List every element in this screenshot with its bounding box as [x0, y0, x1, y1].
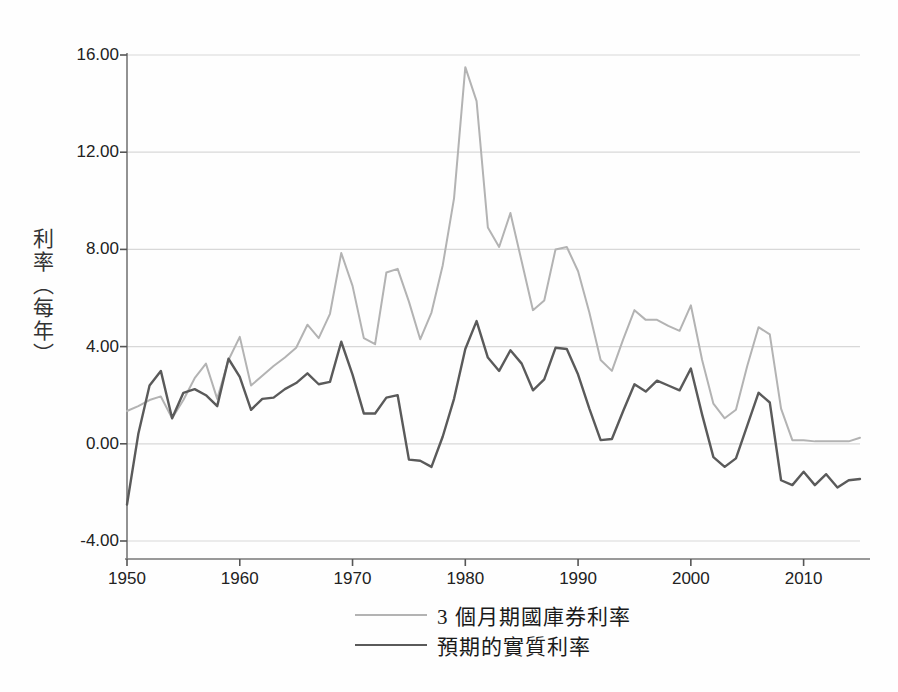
x-tick-label: 1980 [425, 569, 505, 589]
legend-item-1[interactable]: 預期的實質利率 [355, 630, 715, 660]
x-tick-label: 1950 [87, 569, 167, 589]
y-tick-label: 0.00 [45, 434, 119, 454]
x-tick-label: 1990 [538, 569, 618, 589]
chart-figure: 利率（每年） 16.0012.008.004.000.00-4.00 19501… [0, 0, 898, 692]
legend-item-0[interactable]: 3 個月期國庫券利率 [355, 600, 715, 630]
legend-swatch-expected-real-rate [355, 644, 427, 646]
legend-swatch-treasury-bill [355, 614, 427, 616]
legend-label-treasury-bill: 3 個月期國庫券利率 [437, 600, 631, 630]
series-line-1 [127, 321, 860, 504]
chart-legend: 3 個月期國庫券利率 預期的實質利率 [355, 600, 715, 660]
x-tick-label: 1960 [200, 569, 280, 589]
x-tick-label: 2000 [651, 569, 731, 589]
legend-label-expected-real-rate: 預期的實質利率 [437, 630, 591, 660]
y-tick-label: 4.00 [45, 337, 119, 357]
x-tick-label: 1970 [313, 569, 393, 589]
y-tick-label: 16.00 [45, 45, 119, 65]
series-line-0 [127, 67, 860, 441]
x-tick-label: 2010 [764, 569, 844, 589]
y-tick-label: 8.00 [45, 239, 119, 259]
y-tick-label: 12.00 [45, 142, 119, 162]
y-tick-label: -4.00 [45, 531, 119, 551]
